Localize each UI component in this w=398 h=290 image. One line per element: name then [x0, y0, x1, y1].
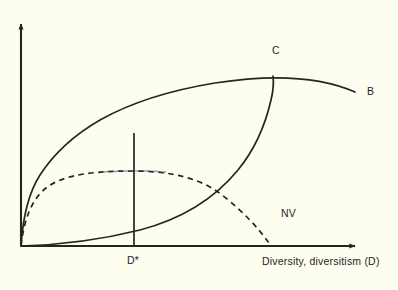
- plot-area: [0, 0, 398, 290]
- optimum-marker-label: D*: [127, 255, 139, 266]
- diagram-figure: B C NV D* Diversity, diversitism (D): [0, 0, 398, 290]
- benefit-curve: [21, 78, 355, 246]
- cost-curve: [21, 76, 273, 246]
- net-value-curve-label: NV: [281, 208, 296, 219]
- cost-curve-label: C: [272, 45, 280, 56]
- x-axis-label: Diversity, diversitism (D): [262, 256, 380, 267]
- benefit-curve-label: B: [367, 86, 374, 97]
- net-value-curve: [21, 171, 269, 246]
